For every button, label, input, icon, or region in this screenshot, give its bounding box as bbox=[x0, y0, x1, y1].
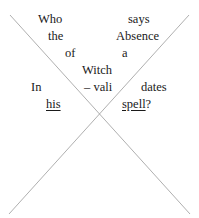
poem-line: In – vali dates bbox=[0, 79, 199, 96]
poem-line: his spell? bbox=[0, 96, 199, 113]
poem-line: Who says bbox=[0, 11, 199, 28]
poem-line: Witch bbox=[0, 62, 199, 79]
poem-word: Absence bbox=[116, 28, 159, 45]
poem-word-underlined: his bbox=[46, 96, 61, 113]
poem-line: the Absence bbox=[0, 28, 199, 45]
poem-word: the bbox=[48, 28, 63, 45]
poem-word: a bbox=[122, 45, 128, 62]
poem-word-underlined-text: spell bbox=[122, 97, 146, 111]
poem-line: of a bbox=[0, 45, 199, 62]
poem-word: Who bbox=[38, 11, 62, 28]
poem-word: In bbox=[31, 79, 41, 96]
poem-word-hyphenated: – vali bbox=[84, 79, 112, 96]
concrete-poem-canvas: Who says the Absence of a Witch In – val… bbox=[0, 0, 199, 218]
poem-word: dates bbox=[141, 79, 167, 96]
poem-word: says bbox=[128, 11, 150, 28]
question-mark: ? bbox=[146, 96, 152, 113]
poem-word-underlined: spell? bbox=[122, 96, 151, 113]
poem-word-center: Witch bbox=[82, 62, 112, 79]
poem-word: of bbox=[65, 45, 75, 62]
